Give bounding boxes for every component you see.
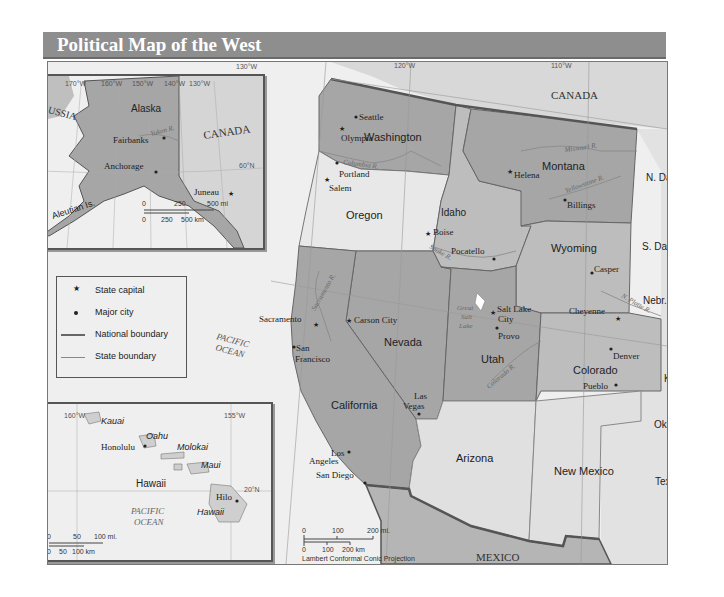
label-kans: Kans. — [664, 373, 667, 384]
city-san-diego: San Diego — [316, 470, 354, 480]
hawaii-scale-bar: 0 50 100 mi. 0 50 100 km — [47, 533, 117, 555]
city-la-2: Angeles — [309, 456, 339, 466]
city-billings: Billings — [567, 200, 596, 210]
meridian-130w: 130°W — [236, 63, 257, 70]
meridian-120w: 120°W — [394, 62, 415, 69]
scale-mi-200: 200 mi. — [367, 527, 390, 534]
svg-text:0: 0 — [142, 200, 146, 207]
thin-line-icon — [61, 352, 85, 362]
label-sdak: S. Dak. — [642, 241, 667, 252]
city-helena: Helena — [514, 170, 539, 180]
meridian-110w: 110°W — [551, 62, 572, 69]
city-las-vegas-1: Las — [414, 391, 427, 401]
svg-text:500 mi: 500 mi — [207, 200, 228, 207]
label-california: California — [331, 399, 378, 411]
star-juneau: ★ — [228, 190, 234, 197]
dot-fairbanks — [162, 136, 165, 139]
city-pocatello: Pocatello — [451, 246, 485, 256]
label-okla: Okla. — [654, 419, 667, 430]
scale-mi-0: 0 — [302, 527, 306, 534]
city-seattle: Seattle — [359, 112, 384, 122]
label-colorado: Colorado — [573, 364, 618, 376]
thick-line-icon — [61, 330, 85, 340]
svg-text:500 km: 500 km — [181, 216, 204, 223]
lake-great-salt-1: Great — [457, 304, 474, 312]
inset-parallel-60: 60°N — [239, 162, 255, 169]
dot-las-vegas — [417, 412, 420, 415]
hi-meridian-155: 155°W — [224, 412, 245, 419]
hi-meridian-160: 160°W — [64, 412, 85, 419]
map-legend: ★ State capital Major city National boun… — [56, 276, 187, 378]
hi-label-hawaii-island: Hawaii — [197, 507, 225, 517]
star-cheyenne: ★ — [615, 315, 621, 322]
scale-km-200: 200 km — [342, 546, 365, 553]
island-molokai — [161, 452, 184, 459]
svg-text:0: 0 — [142, 216, 146, 223]
inset-city-anchorage: Anchorage — [104, 161, 143, 171]
label-ndak: N. Dak. — [646, 172, 667, 183]
label-utah: Utah — [481, 353, 504, 365]
dot-honolulu — [143, 444, 146, 447]
city-sacramento: Sacramento — [259, 314, 302, 324]
city-salt-lake-1: Salt Lake — [497, 304, 531, 314]
legend-item-major-city: Major city — [57, 303, 186, 323]
star-salt-lake-city: ★ — [490, 309, 496, 316]
hi-label-hawaii-state: Hawaii — [136, 478, 166, 489]
hi-label-maui: Maui — [201, 460, 222, 470]
star-boise: ★ — [425, 230, 431, 237]
inset-label-alaska: Alaska — [131, 103, 161, 114]
city-olympia: Olympia — [341, 133, 373, 143]
hi-label-oahu: Oahu — [146, 431, 168, 441]
label-wyoming: Wyoming — [551, 242, 597, 254]
island-lanai — [174, 464, 182, 470]
label-oregon: Oregon — [346, 209, 383, 221]
city-salem: Salem — [329, 183, 352, 193]
inset-meridian-160: 160°W — [101, 80, 122, 87]
dot-los-angeles — [347, 450, 350, 453]
hi-ocean-2: OCEAN — [134, 517, 164, 527]
star-helena: ★ — [507, 168, 513, 175]
svg-text:0: 0 — [47, 533, 51, 540]
projection-note: Lambert Conformal Conic Projection — [302, 555, 415, 563]
inset-meridian-130: 130°W — [189, 80, 210, 87]
title-bar: Political Map of the West — [43, 32, 666, 59]
label-mexico: MEXICO — [476, 551, 519, 563]
city-casper: Casper — [594, 264, 619, 274]
label-idaho: Idaho — [441, 207, 466, 218]
lake-great-salt-3: Lake — [458, 322, 473, 330]
star-salem: ★ — [324, 176, 330, 183]
inset-meridian-150: 150°W — [132, 80, 153, 87]
hi-city-hilo: Hilo — [216, 492, 233, 502]
legend-item-state-capital: ★ State capital — [57, 281, 186, 301]
inset-meridian-140: 140°W — [164, 80, 185, 87]
alaska-inset-svg: 170°W 160°W 150°W 140°W 130°W 60°N RUSSI… — [47, 76, 263, 248]
city-sf-2: Francisco — [295, 354, 330, 364]
island-kauai — [84, 412, 101, 424]
city-sf-1: San — [296, 343, 310, 353]
scale-km-100: 100 — [322, 546, 334, 553]
alaska-inset: 170°W 160°W 150°W 140°W 130°W 60°N RUSSI… — [47, 74, 265, 250]
city-provo: Provo — [498, 331, 520, 341]
svg-text:50: 50 — [73, 533, 81, 540]
dot-pueblo — [614, 383, 617, 386]
dot-portland — [335, 161, 338, 164]
scale-mi-100: 100 — [332, 527, 344, 534]
lake-great-salt-2: Salt — [461, 313, 473, 321]
hi-parallel-20: 20°N — [244, 486, 260, 493]
hi-label-kauai: Kauai — [101, 416, 125, 426]
svg-text:250: 250 — [161, 216, 173, 223]
page-title: Political Map of the West — [57, 34, 261, 56]
dot-icon — [67, 308, 85, 318]
legend-item-state-boundary: State boundary — [57, 347, 186, 367]
scale-km-0: 0 — [302, 546, 306, 553]
label-texas: Texas — [655, 476, 667, 487]
dot-hilo — [235, 499, 238, 502]
city-portland: Portland — [339, 169, 370, 179]
star-icon: ★ — [73, 284, 91, 294]
star-olympia: ★ — [339, 125, 345, 132]
svg-text:0: 0 — [47, 548, 51, 555]
star-sacramento: ★ — [313, 321, 319, 328]
label-montana: Montana — [542, 160, 586, 172]
svg-text:100 km: 100 km — [72, 548, 95, 555]
hi-ocean-1: PACIFIC — [130, 506, 165, 516]
